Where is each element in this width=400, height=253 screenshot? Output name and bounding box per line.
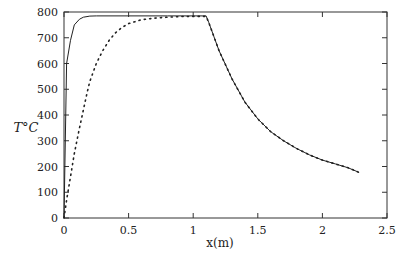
y-tick-label: 200 xyxy=(37,161,58,174)
y-tick-label: 600 xyxy=(37,58,58,71)
data-series xyxy=(64,16,359,218)
y-axis-label: T°C xyxy=(13,120,38,135)
x-tick-label: 1.5 xyxy=(249,224,267,237)
y-tick-label: 100 xyxy=(37,186,58,199)
x-axis-label: x(m) xyxy=(206,236,234,250)
x-tick-label: 1 xyxy=(190,224,197,237)
line-chart: 00.511.522.50100200300400500600700800 x(… xyxy=(0,0,400,253)
plot-border xyxy=(64,12,387,218)
y-tick-label: 700 xyxy=(37,32,58,45)
x-tick-label: 0 xyxy=(61,224,68,237)
x-tick-label: 2 xyxy=(319,224,326,237)
y-tick-label: 300 xyxy=(37,135,58,148)
y-tick-label: 800 xyxy=(37,6,58,19)
series-solid-line xyxy=(64,16,359,218)
y-tick-label: 500 xyxy=(37,83,58,96)
y-tick-label: 0 xyxy=(51,212,58,225)
axis-ticks xyxy=(64,12,387,218)
x-tick-label: 0.5 xyxy=(120,224,138,237)
series-dotted-line xyxy=(64,16,359,218)
x-tick-label: 2.5 xyxy=(378,224,396,237)
plot-frame xyxy=(64,12,387,218)
axis-tick-labels: 00.511.522.50100200300400500600700800 xyxy=(37,6,396,237)
y-tick-label: 400 xyxy=(37,109,58,122)
